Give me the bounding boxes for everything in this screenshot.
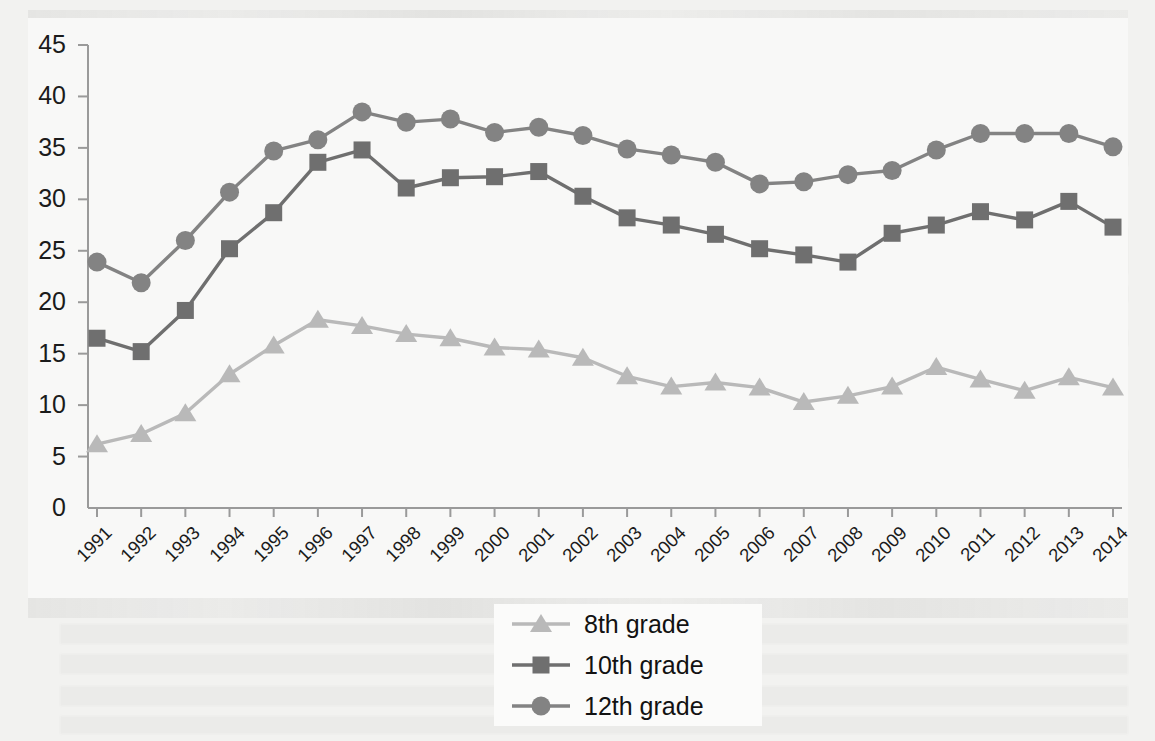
series-12th-grade <box>88 102 1123 292</box>
data-point-marker <box>176 231 195 250</box>
legend-item-8th-grade[interactable]: 8th grade <box>510 609 762 639</box>
square-marker-icon <box>510 653 572 677</box>
data-point-marker <box>1104 137 1123 156</box>
data-point-marker <box>706 153 725 172</box>
series-line <box>97 112 1113 283</box>
data-point-marker <box>308 130 327 149</box>
y-tick-label: 30 <box>8 186 66 211</box>
data-point-marker <box>573 126 592 145</box>
data-point-marker <box>353 102 372 121</box>
data-point-marker <box>662 146 681 165</box>
data-point-marker <box>529 118 548 137</box>
legend-item-12th-grade[interactable]: 12th grade <box>510 691 762 721</box>
data-point-marker <box>265 204 282 221</box>
data-point-marker <box>616 366 638 384</box>
data-point-marker <box>130 424 152 442</box>
data-series-layer <box>86 102 1124 452</box>
data-point-marker <box>1015 124 1034 143</box>
data-point-marker <box>1059 124 1078 143</box>
data-point-marker <box>533 657 550 674</box>
data-point-marker <box>1058 367 1080 385</box>
data-point-marker <box>133 343 150 360</box>
data-point-marker <box>1016 211 1033 228</box>
data-point-marker <box>619 209 636 226</box>
data-point-marker <box>219 364 241 382</box>
y-tick-label: 25 <box>8 238 66 263</box>
chart-legend: 8th grade10th grade12th grade <box>494 604 762 726</box>
data-point-marker <box>485 123 504 142</box>
legend-label: 12th grade <box>584 694 704 719</box>
data-point-marker <box>307 310 329 328</box>
data-point-marker <box>925 357 947 375</box>
data-point-marker <box>838 165 857 184</box>
data-point-marker <box>971 124 990 143</box>
series-10th-grade <box>89 141 1122 360</box>
data-point-marker <box>398 180 415 197</box>
data-point-marker <box>177 302 194 319</box>
y-tick-label: 20 <box>8 289 66 314</box>
data-point-marker <box>309 154 326 171</box>
y-tick-label: 40 <box>8 83 66 108</box>
data-point-marker <box>88 253 107 272</box>
data-point-marker <box>750 174 769 193</box>
legend-label: 8th grade <box>584 612 690 637</box>
data-point-marker <box>220 183 239 202</box>
y-tick-label: 35 <box>8 135 66 160</box>
data-point-marker <box>795 246 812 263</box>
data-point-marker <box>530 163 547 180</box>
data-point-marker <box>486 168 503 185</box>
triangle-marker-icon <box>510 612 572 636</box>
data-point-marker <box>442 169 459 186</box>
data-point-marker <box>927 140 946 159</box>
data-point-marker <box>884 225 901 242</box>
y-tick-label: 15 <box>8 341 66 366</box>
data-point-marker <box>618 139 637 158</box>
y-axis-ticks <box>78 45 88 457</box>
data-point-marker <box>1105 219 1122 236</box>
data-point-marker <box>663 217 680 234</box>
data-point-marker <box>132 273 151 292</box>
y-tick-label: 10 <box>8 392 66 417</box>
series-line <box>97 320 1113 444</box>
y-tick-label: 0 <box>8 495 66 520</box>
circle-marker-icon <box>510 694 572 718</box>
data-point-marker <box>532 697 551 716</box>
data-point-marker <box>1060 193 1077 210</box>
data-point-marker <box>397 113 416 132</box>
series-8th-grade <box>86 310 1124 452</box>
series-line <box>97 150 1113 352</box>
data-point-marker <box>707 226 724 243</box>
data-point-marker <box>794 172 813 191</box>
data-point-marker <box>839 254 856 271</box>
data-point-marker <box>221 240 238 257</box>
data-point-marker <box>881 377 903 395</box>
data-point-marker <box>89 330 106 347</box>
data-point-marker <box>928 217 945 234</box>
y-tick-label: 45 <box>8 32 66 57</box>
legend-item-10th-grade[interactable]: 10th grade <box>510 650 762 680</box>
chart-figure: 051015202530354045 199119921993199419951… <box>0 0 1155 741</box>
data-point-marker <box>751 240 768 257</box>
data-point-marker <box>972 203 989 220</box>
y-tick-label: 5 <box>8 444 66 469</box>
data-point-marker <box>354 141 371 158</box>
data-point-marker <box>883 161 902 180</box>
data-point-marker <box>574 188 591 205</box>
data-point-marker <box>704 372 726 390</box>
data-point-marker <box>263 335 285 353</box>
legend-label: 10th grade <box>584 653 704 678</box>
data-point-marker <box>441 110 460 129</box>
x-axis-ticks <box>97 508 1113 517</box>
data-point-marker <box>264 141 283 160</box>
